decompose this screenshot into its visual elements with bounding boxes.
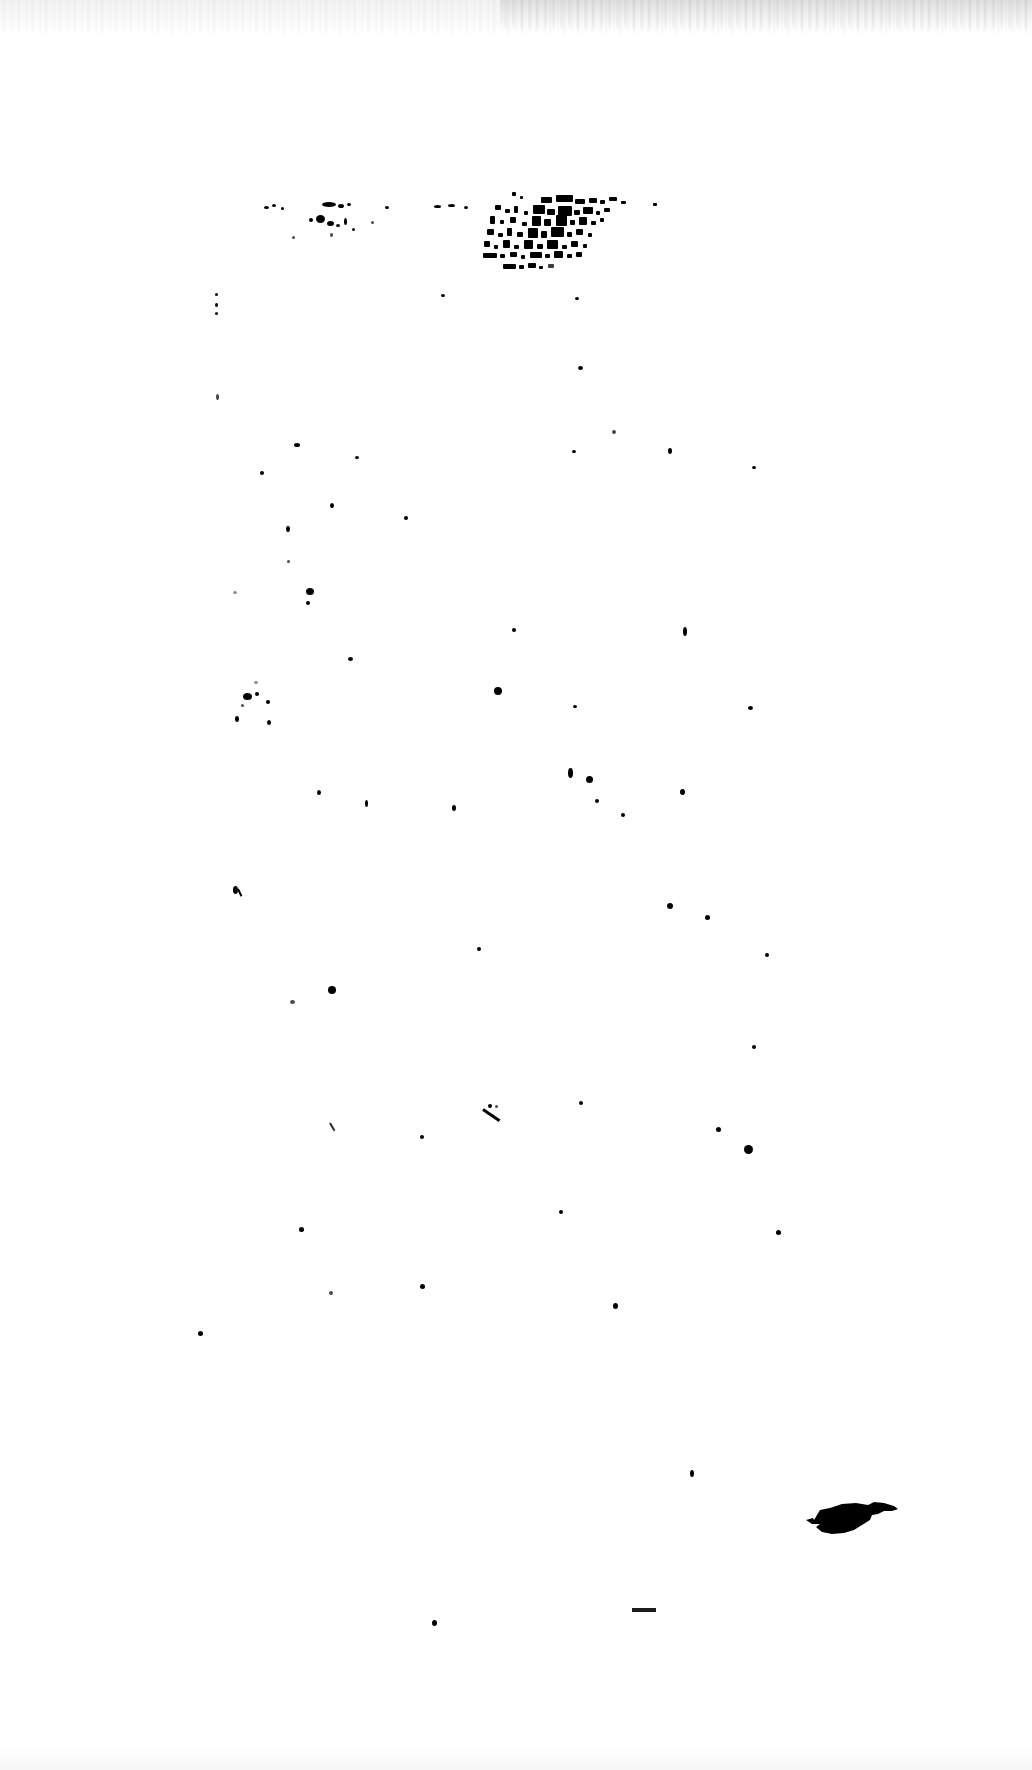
- ink-speck: [254, 681, 258, 684]
- ink-speck: [281, 207, 284, 210]
- ink-speck: [776, 1230, 781, 1235]
- ink-speck: [716, 1127, 721, 1132]
- small-pen-stroke: [329, 1123, 335, 1132]
- ink-speck: [680, 789, 685, 795]
- ink-speck: [752, 1045, 756, 1049]
- text-cluster-line-3: [0, 0, 1, 1]
- ink-speck: [215, 293, 218, 296]
- ink-speck: [299, 1227, 304, 1232]
- ink-speck: [233, 591, 237, 594]
- ink-speck: [752, 466, 756, 469]
- ink-speck: [287, 560, 290, 563]
- ink-speck: [765, 953, 769, 957]
- ink-speck: [575, 297, 579, 300]
- ink-speck: [595, 799, 599, 803]
- ink-speck: [621, 813, 625, 817]
- ink-speck: [432, 1620, 437, 1626]
- ink-speck: [748, 706, 753, 710]
- ink-speck: [344, 218, 347, 225]
- ink-speck: [573, 705, 577, 708]
- ink-speck: [464, 206, 468, 209]
- ink-speck: [233, 886, 238, 894]
- ink-speck: [613, 1303, 618, 1309]
- ink-speck: [612, 430, 616, 434]
- ink-speck: [667, 903, 673, 909]
- ink-speck: [306, 588, 314, 595]
- text-cluster-line-2: [0, 0, 1, 1]
- ink-speck: [352, 228, 355, 231]
- ink-speck: [705, 915, 710, 920]
- ink-speck: [306, 601, 310, 605]
- ink-speck: [327, 221, 334, 226]
- ink-speck: [290, 1000, 295, 1004]
- ink-speck: [420, 1284, 425, 1289]
- ink-speck: [452, 805, 456, 811]
- ink-speck: [578, 366, 583, 370]
- ink-speck: [309, 218, 313, 222]
- ink-speck: [690, 1470, 694, 1477]
- ink-speck: [330, 233, 333, 237]
- ink-speck: [216, 394, 219, 400]
- ink-speck: [329, 1291, 333, 1295]
- ink-speck: [330, 503, 334, 508]
- ink-speck: [267, 720, 271, 725]
- ink-speck: [264, 206, 269, 209]
- scan-streak-top-right: [500, 0, 1032, 28]
- scan-streak-top-edge: [0, 0, 1032, 34]
- ink-speck: [292, 236, 295, 239]
- ink-speck: [235, 716, 239, 722]
- ink-speck: [348, 657, 353, 661]
- ink-speck: [266, 700, 270, 704]
- ink-speck: [260, 471, 264, 475]
- ink-speck: [294, 443, 300, 447]
- ink-speck: [328, 986, 336, 994]
- ink-speck: [512, 628, 516, 632]
- short-dash-mark: [632, 1608, 656, 1612]
- ink-speck: [338, 204, 344, 208]
- ink-speck: [336, 224, 340, 227]
- ink-speck: [371, 221, 374, 224]
- ink-speck: [215, 303, 218, 307]
- ink-speck: [322, 202, 336, 207]
- ink-speck: [559, 1210, 563, 1214]
- ink-speck: [317, 790, 321, 795]
- ink-speck: [365, 800, 368, 807]
- ink-speck: [448, 204, 455, 207]
- text-cluster-line-4: [0, 0, 1, 1]
- text-cluster-line-1: [0, 0, 1, 1]
- ink-speck: [420, 1135, 424, 1139]
- ink-speck: [316, 215, 325, 223]
- ink-speck: [243, 693, 252, 700]
- ink-speck: [241, 704, 244, 707]
- ink-speck: [495, 1105, 498, 1108]
- scanned-document-page: [0, 0, 1032, 1770]
- ink-speck: [272, 204, 276, 207]
- ink-speck: [683, 627, 687, 636]
- ink-speck: [488, 1104, 492, 1108]
- ink-speck: [586, 776, 593, 783]
- ink-speck: [477, 947, 481, 951]
- ink-speck: [255, 692, 259, 696]
- ink-speck: [215, 312, 218, 315]
- ink-speck: [286, 526, 290, 532]
- ink-speck: [668, 448, 672, 454]
- ink-speck: [744, 1145, 753, 1154]
- ink-speck: [568, 768, 573, 778]
- ink-speck: [347, 203, 351, 206]
- ink-speck: [441, 294, 445, 297]
- ink-speck: [198, 1331, 203, 1336]
- ink-speck: [579, 1101, 583, 1105]
- ink-speck: [385, 206, 389, 209]
- ink-speck: [355, 456, 359, 459]
- ink-speck: [494, 687, 502, 695]
- ink-blot: [800, 1498, 900, 1540]
- ink-speck: [572, 450, 576, 453]
- ink-speck: [404, 516, 408, 520]
- diagonal-pen-stroke: [482, 1108, 500, 1122]
- scan-streak-bottom-edge: [0, 1744, 1032, 1770]
- ink-speck: [434, 205, 441, 208]
